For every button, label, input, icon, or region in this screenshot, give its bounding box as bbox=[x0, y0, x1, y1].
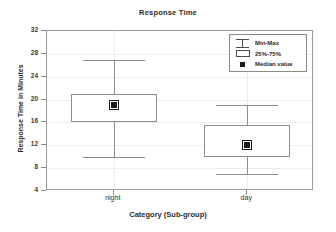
whisker-cap-max bbox=[216, 105, 278, 106]
x-tick-mark bbox=[113, 190, 114, 195]
legend-label-quartiles: 25%-75% bbox=[255, 51, 281, 57]
x-tick-mark bbox=[246, 190, 247, 195]
y-tick-label: 12 bbox=[8, 140, 38, 147]
legend-item-median: Median value bbox=[234, 59, 302, 70]
whisker-glyph-icon bbox=[234, 39, 252, 48]
y-tick-label: 4 bbox=[8, 186, 38, 193]
legend-label-median: Median value bbox=[255, 61, 293, 67]
legend-item-quartiles: 25%-75% bbox=[234, 49, 302, 60]
x-tick-label: day bbox=[206, 194, 286, 201]
y-tick-label: 24 bbox=[8, 72, 38, 79]
whisker-cap-max bbox=[83, 60, 145, 61]
chart-legend: Min-Max 25%-75% Median value bbox=[229, 34, 307, 72]
y-tick-mark bbox=[41, 190, 46, 191]
chart-title: Response Time bbox=[0, 8, 336, 17]
y-tick-label: 20 bbox=[8, 95, 38, 102]
gridline bbox=[47, 168, 312, 169]
whisker-cap-min bbox=[216, 174, 278, 175]
whisker-cap-min bbox=[83, 157, 145, 158]
legend-label-min-max: Min-Max bbox=[255, 40, 279, 46]
x-tick-label: night bbox=[73, 194, 153, 201]
legend-item-min-max: Min-Max bbox=[234, 38, 302, 49]
box-glyph-icon bbox=[234, 49, 252, 58]
boxplot-figure: Response Time Response Time in Minutes C… bbox=[0, 0, 336, 232]
gridline bbox=[47, 122, 312, 123]
y-tick-label: 32 bbox=[8, 26, 38, 33]
median-marker bbox=[243, 141, 251, 149]
y-tick-label: 8 bbox=[8, 163, 38, 170]
gridline bbox=[47, 77, 312, 78]
x-axis-title: Category (Sub-group) bbox=[0, 210, 336, 219]
y-tick-label: 28 bbox=[8, 49, 38, 56]
square-marker-glyph-icon bbox=[234, 60, 252, 69]
y-tick-label: 16 bbox=[8, 117, 38, 124]
median-marker bbox=[110, 101, 118, 109]
